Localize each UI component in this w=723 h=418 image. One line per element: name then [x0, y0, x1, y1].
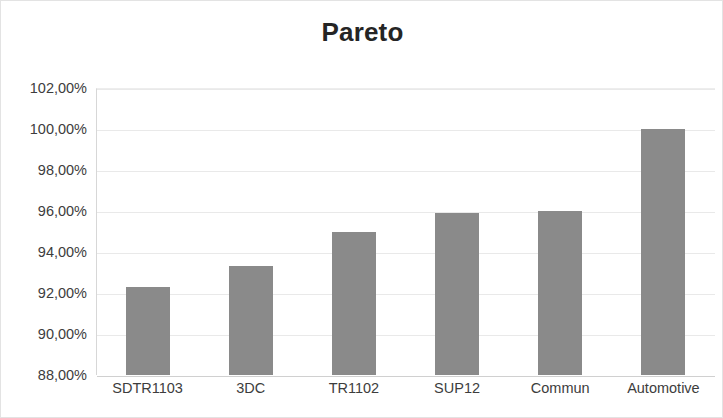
y-axis-tick-label: 90,00% [1, 326, 87, 342]
x-axis-tick-label: TR1102 [329, 380, 380, 396]
gridline [97, 376, 715, 377]
x-axis-tick-label: SUP12 [434, 380, 480, 396]
x-axis-tick-label: SDTR1103 [112, 380, 183, 396]
bar[interactable] [332, 232, 376, 376]
y-axis-labels: 102,00%100,00%98,00%96,00%94,00%92,00%90… [1, 88, 87, 375]
bar[interactable] [538, 211, 582, 375]
bar[interactable] [126, 287, 170, 375]
bar-slot [612, 88, 715, 375]
bar-slot [509, 88, 612, 375]
chart-title: Pareto [1, 17, 723, 48]
y-axis-tick-label: 92,00% [1, 285, 87, 301]
y-axis-tick-label: 100,00% [1, 121, 87, 137]
bar-slot [406, 88, 509, 375]
bar[interactable] [641, 129, 685, 375]
bar-slot [199, 88, 302, 375]
y-axis-tick-label: 94,00% [1, 244, 87, 260]
y-axis-tick-label: 98,00% [1, 162, 87, 178]
y-axis-tick-label: 88,00% [1, 367, 87, 383]
bar[interactable] [229, 266, 273, 375]
x-axis-tick-label: Automotive [627, 380, 700, 396]
bars-layer [96, 88, 715, 375]
bar[interactable] [435, 213, 479, 375]
x-axis-tick-label: 3DC [236, 380, 265, 396]
x-axis-tick-label: Commun [531, 380, 590, 396]
y-axis-tick-label: 102,00% [1, 80, 87, 96]
bar-slot [302, 88, 405, 375]
bar-slot [96, 88, 199, 375]
y-axis-tick-label: 96,00% [1, 203, 87, 219]
x-axis-labels: SDTR11033DCTR1102SUP12CommunAutomotive [96, 380, 715, 410]
pareto-chart: Pareto 102,00%100,00%98,00%96,00%94,00%9… [0, 0, 723, 418]
